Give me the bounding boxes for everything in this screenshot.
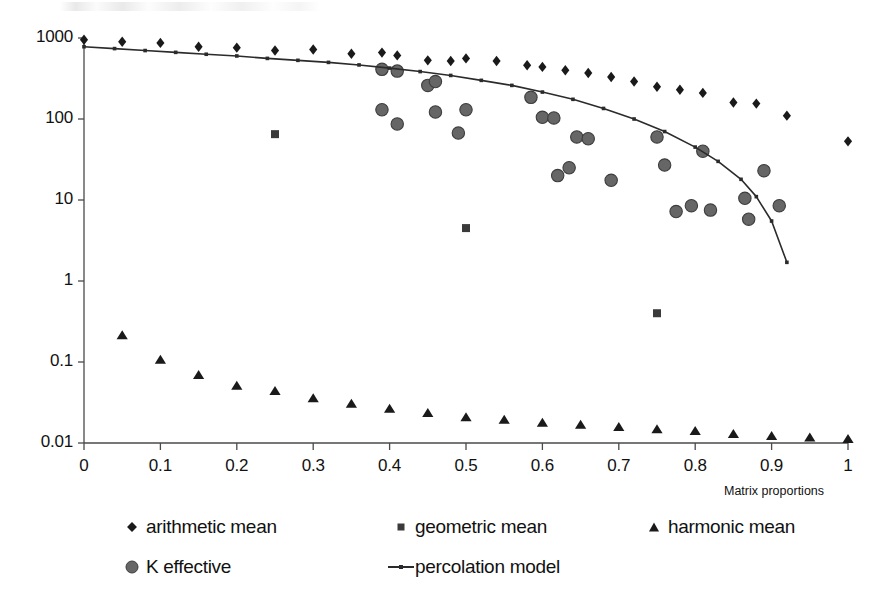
data-point-diamond <box>493 56 501 66</box>
legend-item-k-effective[interactable]: K effective <box>118 556 231 578</box>
data-point-diamond <box>118 37 126 47</box>
curve-node <box>571 98 575 102</box>
line-marker-icon <box>387 558 415 576</box>
curve-node <box>174 51 178 55</box>
data-point-circle <box>460 104 472 116</box>
data-point-triangle <box>690 426 701 435</box>
legend-item-arithmetic-mean[interactable]: arithmetic mean <box>118 516 277 538</box>
x-tick-label: 0.3 <box>283 456 343 476</box>
curve-node <box>770 219 774 223</box>
data-point-diamond <box>630 76 638 86</box>
series-arithmetic-mean <box>80 35 852 147</box>
circle-glyph <box>126 561 139 574</box>
curve-node <box>541 90 545 94</box>
legend-item-harmonic-mean[interactable]: harmonic mean <box>640 516 795 538</box>
curve-node <box>113 47 117 51</box>
square-glyph <box>398 524 405 531</box>
line-glyph <box>388 566 414 568</box>
data-point-circle <box>376 104 388 116</box>
x-tick-label: 1 <box>818 456 877 476</box>
y-tick-label: 0.01 <box>41 432 73 452</box>
curve-node <box>204 52 208 56</box>
data-point-triangle <box>231 381 242 390</box>
data-point-circle <box>525 91 537 103</box>
x-tick-label: 0.7 <box>589 456 649 476</box>
data-point-triangle <box>842 434 853 443</box>
y-tick-label: 100 <box>45 108 73 128</box>
data-point-circle <box>571 131 583 143</box>
data-point-circle <box>651 131 663 143</box>
x-tick-label: 0.8 <box>665 456 725 476</box>
data-point-circle <box>429 106 441 118</box>
data-point-diamond <box>653 82 661 92</box>
data-point-triangle <box>575 420 586 429</box>
data-point-circle <box>739 192 751 204</box>
data-point-triangle <box>269 386 280 395</box>
x-tick-label: 0.1 <box>130 456 190 476</box>
x-axis-title: Matrix proportions <box>724 484 824 498</box>
series-geometric-mean <box>271 130 661 317</box>
x-tick-label: 0.9 <box>742 456 802 476</box>
data-point-diamond <box>783 110 791 120</box>
curve-node <box>479 79 483 83</box>
legend-label: K effective <box>146 556 231 578</box>
data-point-circle <box>758 165 770 177</box>
data-point-triangle <box>651 424 662 433</box>
curve-node <box>418 70 422 74</box>
data-point-diamond <box>447 56 455 66</box>
data-point-triangle <box>766 431 777 440</box>
data-point-circle <box>376 63 388 75</box>
data-point-diamond <box>729 97 737 107</box>
data-point-circle <box>704 204 716 216</box>
y-tick-label: 10 <box>54 189 73 209</box>
curve-node <box>296 59 300 63</box>
legend-label: geometric mean <box>415 516 547 538</box>
x-tick-label: 0.6 <box>512 456 572 476</box>
data-point-diamond <box>538 62 546 72</box>
data-point-square <box>653 309 661 317</box>
data-point-circle <box>773 200 785 212</box>
curve-node <box>693 145 697 149</box>
data-point-diamond <box>561 65 569 75</box>
data-point-diamond <box>271 45 279 55</box>
data-point-diamond <box>347 48 355 58</box>
data-point-diamond <box>424 55 432 65</box>
x-tick-label: 0.5 <box>436 456 496 476</box>
data-point-diamond <box>156 38 164 48</box>
data-point-diamond <box>378 47 386 57</box>
series-harmonic-mean <box>117 330 854 443</box>
x-tick-label: 0 <box>54 456 114 476</box>
data-point-circle <box>551 169 563 181</box>
curve-node <box>266 57 270 61</box>
plot-svg <box>0 0 877 470</box>
y-tick-label: 1000 <box>36 27 73 47</box>
legend-label: percolation model <box>415 556 560 578</box>
legend-item-geometric-mean[interactable]: geometric mean <box>387 516 547 538</box>
data-point-triangle <box>728 429 739 438</box>
data-point-triangle <box>537 418 548 427</box>
curve-node <box>663 130 667 134</box>
data-point-triangle <box>308 393 319 402</box>
curve-node <box>739 178 743 182</box>
data-point-triangle <box>422 408 433 417</box>
chart-page: 10001001010.10.01 00.10.20.30.40.50.60.7… <box>0 0 877 594</box>
curve-node <box>755 195 759 199</box>
data-point-circle <box>670 205 682 217</box>
data-point-circle <box>582 133 594 145</box>
triangle-marker-icon <box>640 518 668 536</box>
curve-node <box>143 49 147 53</box>
legend-label: arithmetic mean <box>146 516 277 538</box>
curve-node <box>82 45 86 49</box>
curve-node <box>602 107 606 111</box>
data-point-triangle <box>346 399 357 408</box>
data-point-diamond <box>393 50 401 60</box>
diamond-glyph <box>127 522 137 532</box>
data-point-triangle <box>460 412 471 421</box>
diamond-marker-icon <box>118 518 146 536</box>
curve-node <box>449 74 453 78</box>
legend-label: harmonic mean <box>668 516 795 538</box>
series-layer <box>80 35 854 443</box>
data-point-diamond <box>523 60 531 70</box>
data-point-diamond <box>195 42 203 52</box>
legend-item-percolation-model[interactable]: percolation model <box>387 556 560 578</box>
